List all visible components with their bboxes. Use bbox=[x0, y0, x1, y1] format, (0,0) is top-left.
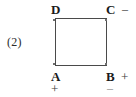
corner-tick-b-icon bbox=[105, 63, 107, 65]
corner-tick-c-icon bbox=[105, 19, 107, 21]
corner-tick-d-icon bbox=[53, 19, 55, 21]
charge-sign-c-minus: – bbox=[122, 3, 128, 16]
charge-sign-a-plus: + bbox=[51, 82, 58, 95]
vertex-label-d: D bbox=[51, 3, 60, 16]
charge-sign-b-minus: – bbox=[107, 82, 113, 95]
vertex-label-c: C bbox=[106, 3, 115, 16]
square-outline bbox=[55, 18, 107, 66]
charge-sign-b-plus: + bbox=[121, 70, 128, 83]
figure-number-label: (2) bbox=[7, 36, 22, 48]
figure-container: (2) D C A B – + + – bbox=[0, 0, 136, 97]
corner-tick-a-icon bbox=[53, 63, 55, 65]
